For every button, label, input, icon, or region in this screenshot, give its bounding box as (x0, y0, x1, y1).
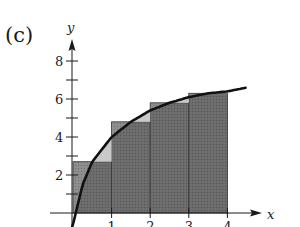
panel-label: (c) (5, 23, 33, 47)
y-tick-label: 2 (55, 168, 63, 183)
riemann-sum-figure: (c) 24681234 x y (0, 0, 300, 227)
x-tick-label: 1 (108, 219, 116, 227)
y-tick-label: 6 (55, 92, 63, 107)
rectangle-2 (112, 122, 151, 213)
y-tick-label: 8 (55, 54, 63, 69)
x-tick-label: 2 (146, 219, 154, 227)
rectangle-3 (150, 103, 189, 213)
y-axis-label: y (66, 20, 75, 35)
x-tick-label: 3 (185, 219, 193, 227)
x-axis-label: x (267, 207, 275, 222)
x-tick-label: 4 (223, 219, 231, 227)
y-tick-label: 4 (55, 130, 63, 145)
rectangle-4 (189, 93, 228, 213)
